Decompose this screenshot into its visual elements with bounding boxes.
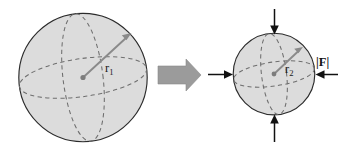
- figure-container: r1 r2: [0, 0, 343, 152]
- sphere-compression-diagram: r1 r2: [0, 0, 343, 152]
- force-magnitude-label: |F|: [316, 55, 329, 69]
- compressed-sphere-center-dot: [272, 72, 277, 77]
- compressed-sphere-group: r2: [232, 32, 316, 116]
- undeformed-sphere-center-dot: [80, 75, 85, 80]
- force-arrow-right-head: [316, 70, 325, 79]
- force-arrow-bottom-head: [270, 115, 279, 124]
- transition-arrow-group: [158, 59, 201, 91]
- transition-arrow: [158, 59, 201, 91]
- force-arrow-left-head: [224, 70, 233, 79]
- undeformed-sphere-group: r1: [17, 11, 149, 143]
